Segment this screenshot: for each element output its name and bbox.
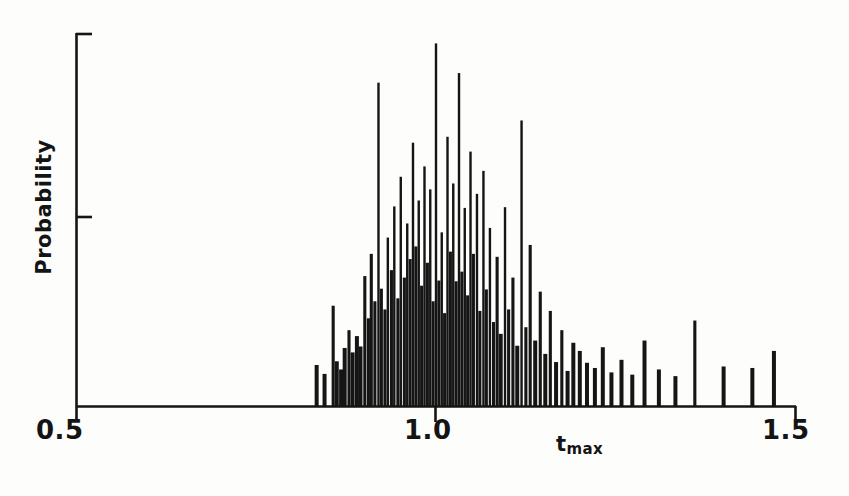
chart-figure: Probability 0.5 1.0 1.5 tmax: [0, 0, 849, 496]
histogram-bar: [496, 257, 499, 407]
histogram-bar: [643, 341, 647, 407]
histogram-bar: [315, 365, 319, 407]
histogram-bar: [449, 252, 452, 407]
histogram-bar: [722, 366, 726, 406]
histogram-bar: [359, 346, 363, 406]
histogram-bar: [437, 281, 440, 407]
histogram-bar: [418, 201, 420, 407]
histogram-bar: [460, 272, 463, 407]
x-axis-label-subscript: max: [567, 440, 603, 458]
x-tick-label-0.5: 0.5: [36, 415, 84, 445]
histogram-bar: [529, 245, 532, 407]
histogram-bar: [511, 278, 514, 407]
histogram-bar: [469, 152, 471, 407]
histogram-bar: [630, 375, 634, 407]
histogram-bar: [520, 120, 522, 406]
histogram-bar: [482, 171, 484, 407]
histogram-bar: [507, 309, 510, 406]
histogram-bar: [549, 311, 552, 407]
histogram-bar: [432, 301, 435, 406]
histogram-bar: [750, 368, 754, 407]
histogram-bar: [452, 183, 454, 406]
histogram-bar: [367, 318, 370, 406]
histogram-bar: [323, 374, 327, 407]
histogram-bar: [355, 336, 359, 406]
histogram-bar: [414, 246, 417, 406]
x-tick-label-1.0: 1.0: [404, 415, 452, 445]
histogram-bar: [429, 189, 431, 406]
histogram-bar: [499, 334, 503, 407]
histogram-bar: [383, 309, 386, 406]
histogram-bar: [543, 354, 547, 407]
histogram-bar: [464, 208, 466, 407]
x-axis-label: tmax: [556, 432, 603, 458]
histogram-bar: [370, 254, 373, 407]
histogram-bar: [441, 232, 443, 406]
histogram-bars: [315, 43, 776, 406]
histogram-bar: [406, 223, 408, 406]
histogram-bar: [620, 360, 624, 407]
histogram-bar: [504, 207, 506, 406]
histogram-bar: [412, 143, 414, 407]
histogram-bar: [476, 194, 478, 407]
histogram-bar: [351, 352, 355, 406]
histogram-bar: [373, 301, 376, 406]
histogram-bar: [409, 259, 412, 406]
histogram-bar: [489, 228, 491, 407]
histogram-bar: [435, 43, 437, 406]
histogram-bar: [420, 286, 423, 407]
histogram-bar: [396, 298, 399, 406]
histogram-bar: [423, 166, 425, 406]
histogram-bar: [554, 362, 558, 406]
histogram-bar: [515, 346, 519, 407]
histogram-bar: [466, 295, 469, 406]
histogram-bar: [578, 351, 582, 407]
x-axis-label-base: t: [556, 432, 567, 456]
histogram-bar: [343, 348, 347, 407]
histogram-bar: [380, 289, 383, 407]
x-tick-label-1.5: 1.5: [762, 415, 810, 445]
histogram-bar: [400, 177, 402, 407]
histogram-bar: [332, 306, 335, 407]
histogram-bar: [566, 371, 570, 407]
histogram-bar: [339, 369, 343, 406]
histogram-bar: [533, 341, 537, 407]
histogram-bar: [393, 206, 395, 406]
histogram-bar: [560, 330, 563, 406]
histogram-bar: [593, 368, 597, 407]
histogram-bar: [585, 363, 589, 407]
histogram-bar: [693, 321, 696, 407]
histogram-bar: [485, 289, 488, 406]
histogram-bar: [657, 369, 661, 406]
histogram-bar: [387, 238, 389, 407]
histogram-bar: [472, 254, 475, 407]
histogram-bar: [390, 270, 393, 406]
histogram-bar: [335, 361, 339, 406]
histogram-bar: [443, 313, 446, 406]
histogram-bar: [478, 311, 481, 407]
histogram-bar: [673, 376, 677, 406]
histogram-bar: [377, 83, 379, 407]
histogram-bar: [524, 327, 527, 406]
histogram-bar: [609, 372, 613, 406]
histogram-bar: [492, 322, 495, 406]
histogram-bar: [363, 276, 366, 406]
histogram-bar: [571, 343, 575, 407]
histogram-bar: [403, 278, 406, 407]
histogram-bar: [539, 292, 542, 407]
histogram-bar: [455, 281, 458, 406]
histogram-bar: [772, 351, 776, 407]
histogram-bar: [347, 330, 350, 406]
histogram-bar: [601, 347, 605, 406]
histogram-bar: [426, 263, 429, 407]
y-axis-label: Probability: [32, 127, 56, 287]
histogram-bar: [446, 137, 448, 407]
histogram-bar: [458, 73, 460, 406]
